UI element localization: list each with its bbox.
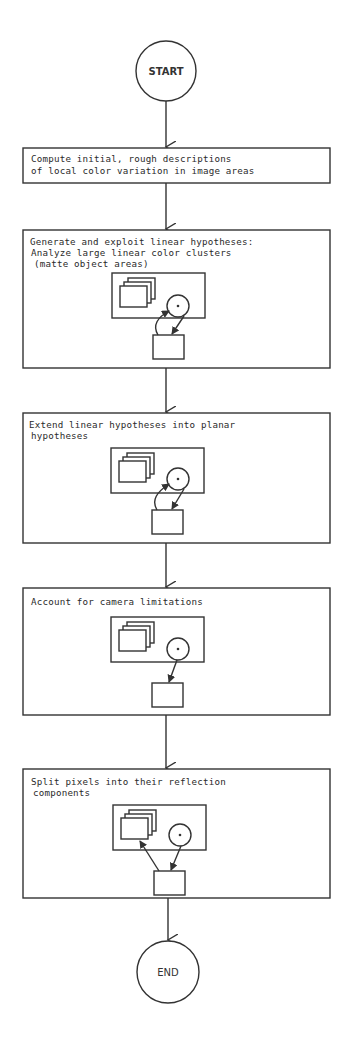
step-5-line-1: Split pixels into their reflection: [31, 776, 226, 787]
image-stack-icon: [119, 453, 154, 482]
hypothesis-circle-icon: [169, 824, 191, 846]
image-stack-icon: [120, 278, 155, 307]
result-box-icon: [152, 510, 183, 534]
step-2-box: Generate and exploit linear hypotheses: …: [23, 230, 330, 368]
start-label: START: [148, 66, 183, 77]
step-2-line-1: Generate and exploit linear hypotheses:: [30, 236, 254, 247]
image-stack-icon: [121, 810, 156, 839]
result-box-icon: [153, 335, 184, 359]
step-4-line-1: Account for camera limitations: [31, 596, 203, 607]
step-4-box: Account for camera limitations: [23, 588, 330, 715]
result-box-icon: [152, 683, 183, 707]
step-2-line-2: Analyze large linear color clusters: [31, 247, 232, 258]
step-2-line-3: (matte object areas): [34, 258, 149, 269]
hypothesis-circle-icon: [167, 295, 189, 317]
step-3-line-2: hypotheses: [31, 430, 88, 441]
start-node: START: [136, 41, 196, 101]
step-1-line-1: Compute initial, rough descriptions: [31, 153, 232, 164]
step-1-line-2: of local color variation in image areas: [31, 165, 255, 176]
end-label: END: [157, 967, 179, 978]
end-node: END: [137, 941, 199, 1003]
image-stack-icon: [119, 622, 154, 651]
step-3-line-1: Extend linear hypotheses into planar: [29, 419, 236, 430]
step-5-box: Split pixels into their reflection compo…: [23, 769, 330, 898]
hypothesis-circle-icon: [167, 638, 189, 660]
flowchart-canvas: START Compute initial, rough description…: [0, 0, 350, 1041]
result-box-icon: [154, 871, 185, 895]
step-3-box: Extend linear hypotheses into planar hyp…: [23, 413, 330, 543]
step-1-box: Compute initial, rough descriptions of l…: [23, 148, 330, 183]
step-5-line-2: components: [33, 787, 90, 798]
hypothesis-circle-icon: [167, 468, 189, 490]
